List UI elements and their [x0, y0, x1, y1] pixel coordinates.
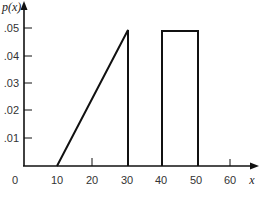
y-tick-label: .03: [4, 77, 19, 89]
x-axis-arrow-icon: [250, 163, 259, 170]
x-tick-label: 20: [86, 174, 98, 186]
x-tick-label: 40: [155, 174, 167, 186]
x-tick-label: 50: [190, 174, 202, 186]
x-tick-label: 30: [121, 174, 133, 186]
x-tick-label-origin: 0: [12, 174, 18, 186]
density-triangle: [57, 30, 128, 166]
x-axis-title: x: [248, 173, 255, 187]
y-tick-label: .01: [4, 132, 19, 144]
x-tick-label: 60: [224, 174, 236, 186]
y-tick-label: .05: [4, 22, 19, 34]
y-axis: [21, 1, 33, 166]
density-chart: .05 .04 .03 .02 .01 p(x) 0 10 20 30 40 5…: [0, 0, 264, 198]
y-tick-label: .02: [4, 104, 19, 116]
y-tick-label: .04: [4, 50, 19, 62]
x-tick-label: 10: [51, 174, 63, 186]
density-rectangle: [162, 31, 198, 166]
y-axis-arrow-icon: [21, 1, 28, 10]
y-axis-title: p(x): [1, 0, 21, 14]
